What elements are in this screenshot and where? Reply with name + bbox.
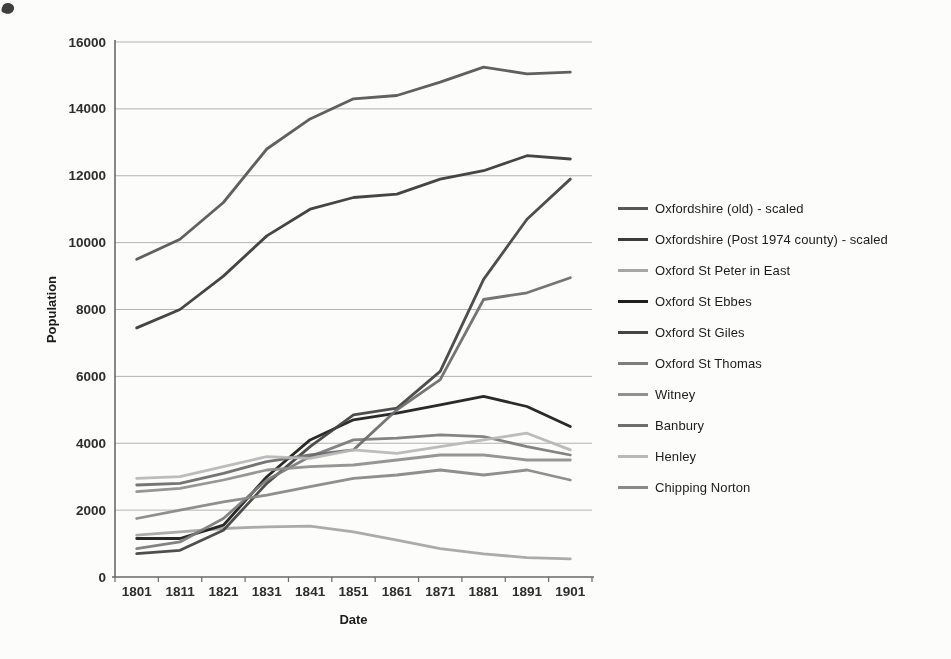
legend-line-swatch: [618, 238, 648, 241]
legend-label: Oxford St Peter in East: [655, 263, 790, 278]
y-tick-label-8000: 8000: [76, 302, 106, 317]
legend-item-chipping-norton: Chipping Norton: [618, 472, 948, 503]
legend-item-oxford-st-peter-in-east: Oxford St Peter in East: [618, 255, 948, 286]
legend-item-witney: Witney: [618, 379, 948, 410]
legend-line-swatch: [618, 300, 648, 303]
y-tick-label-4000: 4000: [76, 436, 106, 451]
x-tick-label-1901: 1901: [555, 584, 586, 599]
scanned-population-chart-page: 0200040006000800010000120001400016000180…: [0, 0, 951, 659]
x-tick-label-1881: 1881: [469, 584, 500, 599]
legend-item-banbury: Banbury: [618, 410, 948, 441]
y-tick-label-2000: 2000: [76, 503, 106, 518]
x-tick-label-1841: 1841: [295, 584, 326, 599]
legend-label: Chipping Norton: [655, 480, 750, 495]
legend-label: Oxford St Thomas: [655, 356, 762, 371]
series-line-oxfordshire-post-1974-county-scaled: [137, 156, 571, 328]
legend-line-swatch: [618, 362, 648, 365]
chart-area: 0200040006000800010000120001400016000180…: [0, 0, 951, 659]
legend-line-swatch: [618, 269, 648, 272]
legend-item-henley: Henley: [618, 441, 948, 472]
legend-label: Oxford St Giles: [655, 325, 745, 340]
legend-line-swatch: [618, 331, 648, 334]
y-tick-label-12000: 12000: [68, 168, 106, 183]
legend-label: Witney: [655, 387, 695, 402]
chart-legend: Oxfordshire (old) - scaledOxfordshire (P…: [618, 193, 948, 503]
x-tick-label-1891: 1891: [512, 584, 543, 599]
legend-line-swatch: [618, 486, 648, 489]
y-tick-label-14000: 14000: [68, 101, 106, 116]
legend-item-oxfordshire-post-1974-county-scaled: Oxfordshire (Post 1974 county) - scaled: [618, 224, 948, 255]
x-tick-label-1811: 1811: [165, 584, 195, 599]
y-tick-label-10000: 10000: [68, 235, 106, 250]
x-axis-title: Date: [339, 612, 367, 627]
series-line-oxford-st-ebbes: [137, 396, 571, 538]
legend-label: Oxfordshire (Post 1974 county) - scaled: [655, 232, 888, 247]
x-tick-label-1861: 1861: [382, 584, 413, 599]
series-line-oxford-st-giles: [137, 179, 571, 553]
x-tick-label-1821: 1821: [208, 584, 239, 599]
legend-label: Henley: [655, 449, 696, 464]
y-tick-label-16000: 16000: [68, 35, 106, 50]
y-tick-label-0: 0: [98, 570, 106, 585]
y-tick-label-6000: 6000: [76, 369, 106, 384]
series-line-banbury: [137, 278, 571, 485]
legend-label: Banbury: [655, 418, 704, 433]
legend-line-swatch: [618, 455, 648, 458]
legend-item-oxfordshire-old-scaled: Oxfordshire (old) - scaled: [618, 193, 948, 224]
x-tick-label-1851: 1851: [338, 584, 369, 599]
legend-item-oxford-st-ebbes: Oxford St Ebbes: [618, 286, 948, 317]
x-tick-label-1871: 1871: [425, 584, 456, 599]
legend-label: Oxford St Ebbes: [655, 294, 752, 309]
legend-line-swatch: [618, 207, 648, 210]
x-tick-label-1801: 1801: [122, 584, 153, 599]
y-axis-title: Population: [44, 276, 59, 343]
legend-item-oxford-st-giles: Oxford St Giles: [618, 317, 948, 348]
legend-line-swatch: [618, 424, 648, 427]
x-tick-label-1831: 1831: [252, 584, 283, 599]
legend-line-swatch: [618, 393, 648, 396]
legend-item-oxford-st-thomas: Oxford St Thomas: [618, 348, 948, 379]
legend-label: Oxfordshire (old) - scaled: [655, 201, 804, 216]
